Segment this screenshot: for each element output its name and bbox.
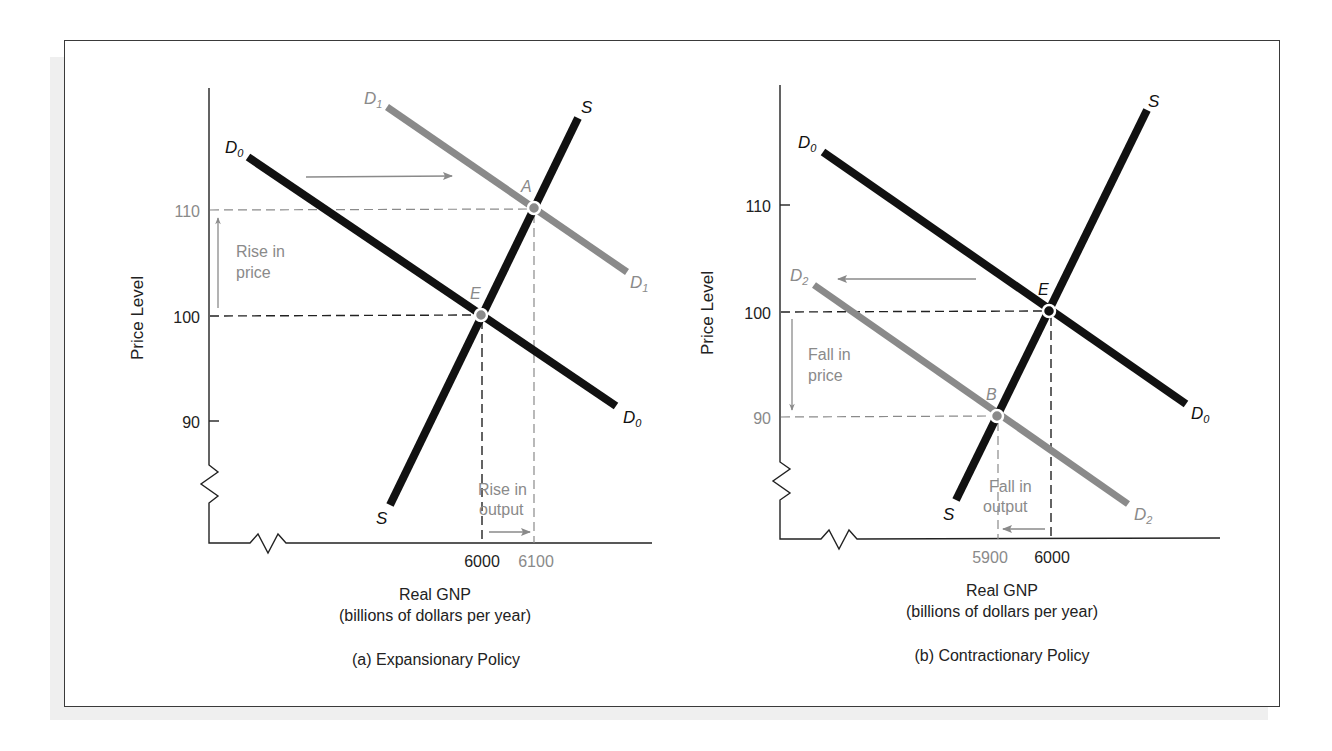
panel-b-label-point-e: E [1038,281,1049,298]
panel-a-label-s-top: S [581,98,593,117]
panel-a-label-point-e: E [470,285,481,302]
panel-b-label-d0-top: D0 [798,133,817,154]
panel-a-rise-price-label: Rise in price [236,243,289,281]
panel-b-caption: (b) Contractionary Policy [914,647,1089,664]
panel-a-ytick-90: 90 [182,414,200,431]
panel-a-expansionary: 110 100 90 6000 6100 Price Level Real GN… [128,88,652,668]
panel-b-contractionary: 110 100 90 5900 6000 Price Level Real GN… [698,85,1220,664]
panel-a-xtick-6000: 6000 [464,553,500,570]
panel-b-label-s-bottom: S [943,505,955,524]
panel-a-axes [201,88,652,553]
panel-b-ytick-100: 100 [744,305,771,322]
panel-b-xtick-6000: 6000 [1034,549,1070,566]
panel-b-fall-output-line1: Fall in [989,478,1032,495]
panel-a-label-d0-bottom: D0 [623,408,642,429]
panel-b-point-b [991,410,1003,422]
figure-canvas: 110 100 90 6000 6100 Price Level Real GN… [0,0,1332,751]
panel-b-xlabel-line2: (billions of dollars per year) [906,603,1098,620]
panel-a-rise-output-label: Rise in output [478,481,531,518]
panel-b-ylabel: Price Level [698,271,717,355]
panel-a-label-d1-top: D1 [364,89,382,110]
panel-a-ytick-100: 100 [173,309,200,326]
panel-a-rise-price-line1: Rise in [236,243,285,260]
panel-b-xtick-5900: 5900 [972,549,1008,566]
panel-a-rise-price-line2: price [236,264,271,281]
panel-b-fall-price-line1: Fall in [808,346,851,363]
panel-b-label-d0-bottom: D0 [1191,404,1210,425]
panel-a-label-s-bottom: S [376,509,388,528]
panel-a-ytick-110: 110 [174,203,200,220]
panel-b-label-d2-bottom: D2 [1134,505,1152,526]
panel-b-curve-d0 [823,152,1186,404]
panel-a-caption: (a) Expansionary Policy [352,651,520,668]
panel-b-label-point-b: B [986,386,997,403]
panel-b-fall-price-label: Fall in price [808,346,855,384]
panel-a-xlabel-line2: (billions of dollars per year) [339,607,531,624]
panel-a-point-e [475,309,487,321]
panel-a-ylabel: Price Level [128,276,147,360]
panel-b-ytick-90: 90 [753,410,771,427]
panel-b-fall-output-line2: output [983,498,1028,515]
panel-a-xtick-6100: 6100 [518,553,554,570]
panel-b-label-d2-top: D2 [790,266,808,287]
panel-a-label-d1-bottom: D1 [630,273,648,294]
panel-b-xlabel-line1: Real GNP [966,582,1038,599]
panel-a-label-d0-top: D0 [225,138,244,159]
panel-a-rise-output-line2: output [479,501,524,518]
panel-a-label-point-a: A [520,178,532,195]
panel-b-ytick-110: 110 [745,198,771,215]
panel-a-curve-d0 [248,157,616,406]
panel-a-xlabel-line1: Real GNP [399,586,471,603]
panel-b-label-s-top: S [1148,92,1160,111]
panel-b-fall-price-line2: price [808,367,843,384]
panel-a-demand-shift-arrow [306,176,452,177]
panel-a-rise-output-line1: Rise in [478,481,527,498]
panel-a-curve-d1 [387,107,627,272]
panel-a-point-a [528,202,540,214]
panel-b-point-e [1043,305,1055,317]
panel-b-fall-output-label: Fall in output [983,478,1036,515]
